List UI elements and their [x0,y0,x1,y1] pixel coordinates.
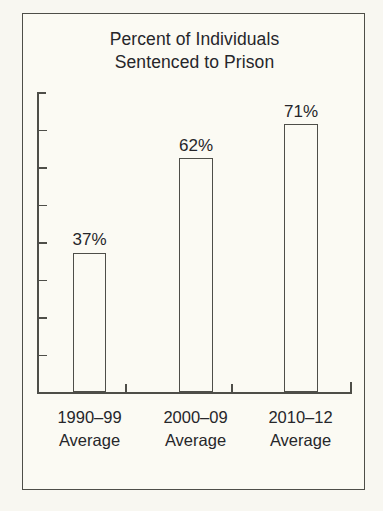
y-axis-tick [39,355,47,357]
x-axis-tick [125,384,127,392]
bar-2010-12-average[interactable] [284,124,318,392]
bar-value-label-2: 62% [160,136,232,155]
bar-1990-99-average[interactable] [73,253,106,393]
x-axis-label-1-line-1: 1990–99 [37,406,142,429]
x-axis-label-3-line-1: 2010–12 [248,406,353,429]
y-axis-tick [39,167,47,169]
y-axis-tick [39,280,47,282]
x-axis-label-2-line-1: 2000–09 [143,406,248,429]
x-axis-right-cap [350,382,352,392]
y-axis-tick [39,317,47,319]
bar-2000-09-average[interactable] [179,158,213,392]
x-axis-label-1: 1990–99 Average [37,406,142,452]
chart-title: Percent of Individuals Sentenced to Pris… [23,28,366,74]
x-axis-line [37,392,352,394]
chart-frame: Percent of Individuals Sentenced to Pris… [22,13,365,490]
chart-title-line-1: Percent of Individuals [23,28,366,51]
chart-title-line-2: Sentenced to Prison [23,51,366,74]
x-axis-label-3: 2010–12 Average [248,406,353,452]
page-background: Percent of Individuals Sentenced to Pris… [0,0,383,511]
plot-area: 37% 62% 71% [37,92,352,394]
y-axis-tick [39,242,47,244]
x-axis-label-1-line-2: Average [37,429,142,452]
x-axis-tick [231,384,233,392]
y-axis-top-cap [37,92,46,94]
y-axis-tick [39,130,47,132]
bar-value-label-3: 71% [265,102,337,121]
x-axis-label-2: 2000–09 Average [143,406,248,452]
x-axis-label-3-line-2: Average [248,429,353,452]
y-axis-tick [39,205,47,207]
x-axis-label-2-line-2: Average [143,429,248,452]
bar-value-label-1: 37% [54,230,125,249]
x-axis-category-labels: 1990–99 Average 2000–09 Average 2010–12 … [37,406,352,468]
